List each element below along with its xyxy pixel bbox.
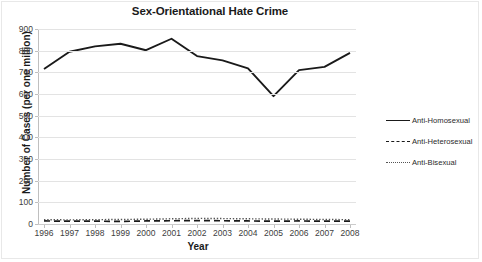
legend-item-anti-homosexual[interactable]: Anti-Homosexual bbox=[386, 110, 482, 131]
gridline bbox=[38, 51, 356, 52]
x-tick-label: 2008 bbox=[333, 228, 367, 238]
x-tick-mark bbox=[172, 225, 173, 228]
gridline bbox=[38, 159, 356, 160]
gridline bbox=[38, 137, 356, 138]
chart-legend: Anti-Homosexual Anti-Heterosexual Anti-B… bbox=[386, 110, 482, 173]
y-tick-label: 400 bbox=[3, 132, 33, 142]
series-layer bbox=[38, 29, 356, 224]
y-tick-label: 900 bbox=[3, 24, 33, 34]
y-tick-label: 500 bbox=[3, 111, 33, 121]
x-tick-mark bbox=[121, 225, 122, 228]
plot-area bbox=[38, 29, 356, 224]
x-tick-mark bbox=[197, 225, 198, 228]
legend-item-anti-heterosexual[interactable]: Anti-Heterosexual bbox=[386, 131, 482, 152]
series-line bbox=[44, 39, 350, 96]
x-tick-mark bbox=[274, 225, 275, 228]
x-tick-mark bbox=[350, 225, 351, 228]
chart-container: Sex-Orientational Hate Crime Number of C… bbox=[0, 0, 482, 262]
gridline bbox=[38, 94, 356, 95]
y-tick-label: 800 bbox=[3, 46, 33, 56]
solid-line-swatch-icon bbox=[386, 117, 410, 125]
y-tick-label: 600 bbox=[3, 89, 33, 99]
x-tick-mark bbox=[325, 225, 326, 228]
y-tick-label: 200 bbox=[3, 176, 33, 186]
gridline bbox=[38, 202, 356, 203]
x-tick-mark bbox=[146, 225, 147, 228]
y-tick-label: 700 bbox=[3, 67, 33, 77]
series-line bbox=[44, 218, 350, 220]
x-tick-mark bbox=[70, 225, 71, 228]
legend-label: Anti-Heterosexual bbox=[412, 137, 472, 146]
chart-title: Sex-Orientational Hate Crime bbox=[0, 5, 420, 17]
gridline bbox=[38, 72, 356, 73]
gridline bbox=[38, 29, 356, 30]
y-tick-label: 300 bbox=[3, 154, 33, 164]
y-tick-label: 100 bbox=[3, 197, 33, 207]
gridline bbox=[38, 181, 356, 182]
x-tick-mark bbox=[248, 225, 249, 228]
legend-item-anti-bisexual[interactable]: Anti-Bisexual bbox=[386, 152, 482, 173]
gridline bbox=[38, 116, 356, 117]
x-tick-mark bbox=[223, 225, 224, 228]
x-axis-title: Year bbox=[38, 241, 358, 252]
x-tick-mark bbox=[95, 225, 96, 228]
series-line bbox=[44, 221, 350, 222]
dotted-line-swatch-icon bbox=[386, 159, 410, 167]
dashed-line-swatch-icon bbox=[386, 138, 410, 146]
legend-label: Anti-Bisexual bbox=[412, 158, 456, 167]
x-tick-mark bbox=[44, 225, 45, 228]
legend-label: Anti-Homosexual bbox=[412, 116, 470, 125]
x-tick-mark bbox=[299, 225, 300, 228]
